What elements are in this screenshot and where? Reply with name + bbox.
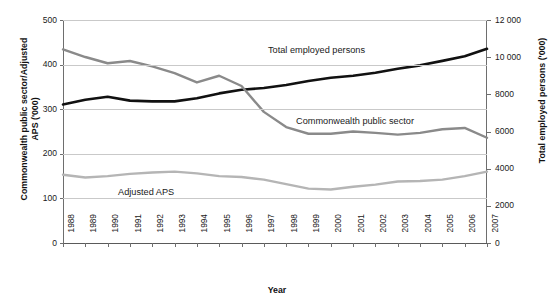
x-axis-tickmark <box>420 243 421 247</box>
y-axis-right-tickmark <box>487 94 491 95</box>
x-axis-tickmark <box>242 243 243 247</box>
y-axis-left-tick-label: 400 <box>43 60 57 69</box>
y-axis-left-tick-label: 100 <box>43 194 57 203</box>
x-axis-tick-label: 1990 <box>111 214 119 248</box>
x-axis-tick-label: 1999 <box>312 214 320 248</box>
y-axis-right-tickmark <box>487 132 491 133</box>
y-axis-right-tick-label: 12 000 <box>495 16 521 25</box>
x-axis-tick-label: 2004 <box>424 214 432 248</box>
x-axis-tickmark <box>308 243 309 247</box>
y-axis-left-tick-label: 200 <box>43 149 57 158</box>
chart-root: Total employed persons 01002003004005000… <box>0 0 554 299</box>
x-axis-tickmark <box>175 243 176 247</box>
y-axis-left-tickmark <box>60 198 64 199</box>
x-axis-tickmark <box>465 243 466 247</box>
x-axis-tickmark <box>442 243 443 247</box>
gridline <box>63 65 487 66</box>
x-axis-tick-label: 2001 <box>357 214 365 248</box>
label-total-employed-persons: Total employed persons <box>268 46 365 55</box>
x-axis-tick-label: 2007 <box>491 214 499 248</box>
x-axis-tickmark <box>331 243 332 247</box>
y-axis-left-title: Commonwealth public sector/Adjusted APS … <box>19 29 41 209</box>
y-axis-right-tick-label: 10 000 <box>495 53 521 62</box>
y-axis-right-tickmark <box>487 20 491 21</box>
y-axis-right-tickmark <box>487 57 491 58</box>
x-axis-tick-label: 1996 <box>245 214 253 248</box>
x-axis-tickmark <box>130 243 131 247</box>
y-axis-right-tick-label: 4000 <box>495 164 514 173</box>
x-axis-tickmark <box>63 243 64 247</box>
label-commonwealth-public-sector: Commonwealth public sector <box>296 117 414 126</box>
x-axis-tickmark <box>152 243 153 247</box>
y-axis-left-tick-label: 0 <box>52 239 57 248</box>
y-axis-right-title: Total employed persons ('000) <box>537 10 548 190</box>
y-axis-right-tick-label: 2000 <box>495 201 514 210</box>
y-axis-right-tickmark <box>487 169 491 170</box>
x-axis-tick-label: 1992 <box>156 214 164 248</box>
x-axis-tickmark <box>264 243 265 247</box>
x-axis-tickmark <box>487 243 488 247</box>
x-axis-tick-label: 2000 <box>334 214 342 248</box>
y-axis-left-tick-label: 300 <box>43 105 57 114</box>
x-axis-title: Year <box>0 285 554 295</box>
x-axis-tick-label: 2006 <box>468 214 476 248</box>
x-axis-tick-label: 2005 <box>446 214 454 248</box>
y-axis-left-tickmark <box>60 20 64 21</box>
gridline <box>63 109 487 110</box>
y-axis-right-tick-label: 8000 <box>495 90 514 99</box>
y-axis-right-tickmark <box>487 206 491 207</box>
label-adjusted-aps: Adjusted APS <box>118 188 174 197</box>
y-axis-left-tickmark <box>60 154 64 155</box>
x-axis-tickmark <box>197 243 198 247</box>
x-axis-tickmark <box>353 243 354 247</box>
gridline <box>63 198 487 199</box>
x-axis-tickmark <box>286 243 287 247</box>
x-axis-tickmark <box>85 243 86 247</box>
y-axis-left-tickmark <box>60 109 64 110</box>
gridline <box>63 20 487 21</box>
x-axis-tick-label: 1995 <box>223 214 231 248</box>
x-axis-tick-label: 1998 <box>290 214 298 248</box>
x-axis-tick-label: 1997 <box>267 214 275 248</box>
x-axis-tick-label: 2003 <box>401 214 409 248</box>
x-axis-tick-label: 1994 <box>200 214 208 248</box>
gridline <box>63 154 487 155</box>
y-axis-right-tick-label: 6000 <box>495 127 514 136</box>
x-axis-tick-label: 1991 <box>134 214 142 248</box>
x-axis-tick-label: 1989 <box>89 214 97 248</box>
x-axis-tick-label: 1988 <box>67 214 75 248</box>
x-axis-tickmark <box>219 243 220 247</box>
y-axis-left-tickmark <box>60 65 64 66</box>
y-axis-left-tick-label: 500 <box>43 16 57 25</box>
x-axis-tick-label: 1993 <box>178 214 186 248</box>
x-axis-tickmark <box>375 243 376 247</box>
x-axis-tickmark <box>398 243 399 247</box>
x-axis-tick-label: 2002 <box>379 214 387 248</box>
x-axis-tickmark <box>108 243 109 247</box>
